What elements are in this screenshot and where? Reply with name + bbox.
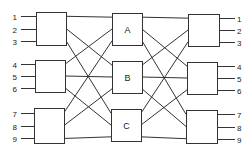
output-label: 8 bbox=[237, 124, 242, 133]
link-left-middle bbox=[64, 137, 111, 139]
left-switch-box bbox=[37, 13, 67, 46]
switch-label: C bbox=[123, 121, 130, 131]
output-label: 6 bbox=[237, 87, 242, 96]
input-label: 1 bbox=[13, 13, 18, 22]
link-middle-right bbox=[142, 17, 188, 18]
input-label: 7 bbox=[13, 110, 18, 119]
link-middle-right bbox=[141, 90, 187, 125]
input-label: 9 bbox=[13, 135, 18, 144]
input-label: 8 bbox=[13, 123, 18, 132]
switch-label: B bbox=[124, 73, 130, 83]
output-label: 4 bbox=[237, 63, 242, 72]
link-left-middle bbox=[66, 16, 112, 17]
left-switch-box bbox=[35, 109, 65, 144]
right-switch-box bbox=[187, 111, 218, 144]
output-label: 2 bbox=[237, 27, 242, 36]
switch-label: A bbox=[124, 25, 130, 35]
input-label: 3 bbox=[13, 38, 18, 47]
input-label: 6 bbox=[13, 85, 18, 94]
right-switch-box bbox=[189, 15, 220, 47]
switching-network-diagram: 123456789123456789ABC bbox=[0, 0, 252, 153]
output-label: 5 bbox=[237, 75, 242, 84]
output-label: 7 bbox=[237, 111, 242, 120]
output-label: 9 bbox=[237, 136, 242, 145]
input-label: 5 bbox=[13, 73, 18, 82]
input-label: 2 bbox=[13, 26, 18, 35]
link-left-middle bbox=[65, 29, 112, 64]
input-label: 4 bbox=[13, 61, 18, 70]
output-label: 3 bbox=[237, 39, 242, 48]
right-switch-box bbox=[188, 63, 218, 95]
left-switch-box bbox=[36, 61, 66, 93]
link-middle-right bbox=[141, 137, 186, 139]
output-label: 1 bbox=[237, 15, 242, 24]
